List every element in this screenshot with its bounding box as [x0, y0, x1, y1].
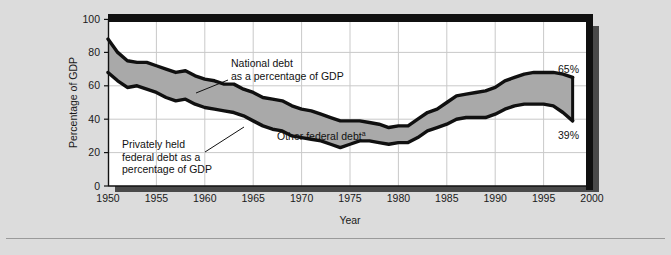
x-tick-label-1975: 1975	[330, 193, 370, 204]
privately-held-annotation-line3: percentage of GDP	[122, 163, 212, 176]
y-tick-label-20: 20	[76, 147, 100, 158]
x-tick-label-1970: 1970	[282, 193, 322, 204]
footer-divider-rule	[6, 238, 665, 239]
y-tick-marks	[104, 19, 108, 186]
other-federal-debt-annotation: Other federal debta	[277, 130, 366, 143]
privately-held-endpoint-label: 39%	[558, 130, 579, 141]
y-tick-label-60: 60	[76, 80, 100, 91]
x-tick-label-1960: 1960	[185, 193, 225, 204]
y-tick-label-0: 0	[76, 181, 100, 192]
x-tick-label-1985: 1985	[427, 193, 467, 204]
national-debt-endpoint-label: 65%	[558, 64, 579, 75]
x-axis-title: Year	[330, 215, 370, 226]
x-tick-label-1955: 1955	[136, 193, 176, 204]
y-tick-label-80: 80	[76, 47, 100, 58]
national-debt-annotation: National debt as a percentage of GDP	[231, 57, 344, 82]
x-tick-label-1990: 1990	[475, 193, 515, 204]
national-debt-annotation-line2: as a percentage of GDP	[231, 70, 344, 83]
y-axis-title: Percentage of GDP	[68, 57, 79, 148]
x-tick-label-1950: 1950	[88, 193, 128, 204]
plot-top-border	[108, 14, 592, 22]
x-tick-label-1995: 1995	[524, 193, 564, 204]
y-tick-label-100: 100	[76, 14, 100, 25]
national-debt-annotation-line1: National debt	[231, 57, 344, 70]
privately-held-annotation-line1: Privately held	[122, 138, 212, 151]
figure-container: 100 80 60 40 20 0 Percentage of GDP 1950…	[0, 0, 671, 255]
x-tick-label-1980: 1980	[378, 193, 418, 204]
x-tick-label-2000: 2000	[572, 193, 612, 204]
privately-held-annotation: Privately held federal debt as a percent…	[122, 138, 212, 176]
plot-right-border	[586, 14, 593, 190]
other-federal-debt-footnote-marker: a	[362, 130, 366, 137]
privately-held-annotation-line2: federal debt as a	[122, 151, 212, 164]
x-tick-label-1965: 1965	[233, 193, 273, 204]
other-federal-debt-text: Other federal debt	[277, 130, 362, 142]
y-tick-label-40: 40	[76, 114, 100, 125]
